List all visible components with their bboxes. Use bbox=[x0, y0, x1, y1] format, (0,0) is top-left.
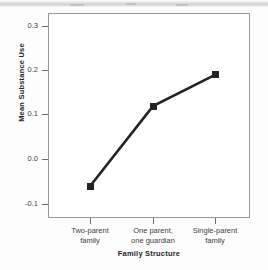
data-point-marker bbox=[212, 71, 219, 78]
data-series-line bbox=[0, 0, 268, 270]
figure-container: Mean Substance Use 0.3 0.2 0.1 0.0 -0.1 … bbox=[0, 0, 268, 270]
data-point-marker bbox=[150, 103, 157, 110]
data-point-marker bbox=[87, 183, 94, 190]
